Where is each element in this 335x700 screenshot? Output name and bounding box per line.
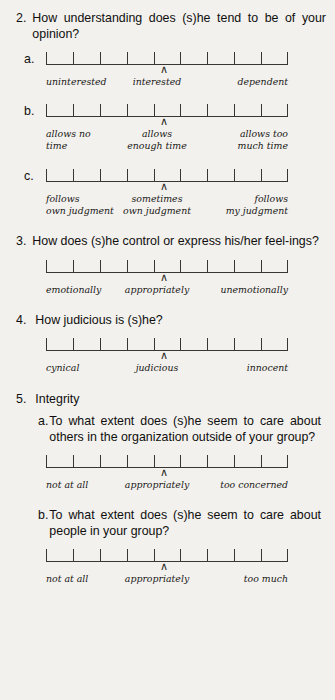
scale-tick[interactable] xyxy=(207,260,208,273)
rating-scale-2a[interactable]: ∧ xyxy=(46,51,288,66)
scale-tick[interactable] xyxy=(100,549,101,562)
scale-tick[interactable] xyxy=(127,260,128,273)
scale-5a[interactable]: ∧ not at all appropriately too concerned xyxy=(46,454,335,492)
rating-scale-5b[interactable]: ∧ xyxy=(46,548,288,563)
scale-tick[interactable] xyxy=(154,169,155,182)
scale-tick[interactable] xyxy=(127,52,128,65)
scale-tick[interactable] xyxy=(207,104,208,117)
scale-tick[interactable] xyxy=(154,549,155,562)
scale-2b[interactable]: b. ∧ allows no time allows enough time a… xyxy=(24,103,335,153)
scale-tick[interactable] xyxy=(180,338,181,351)
question-5b-text: To what extent does (s)he seem to care a… xyxy=(49,508,321,539)
scale-label-center: appropriately xyxy=(125,479,189,490)
question-3-number: 3. xyxy=(16,234,26,250)
scale-label-center: judicious xyxy=(136,362,179,373)
scale-tick[interactable] xyxy=(73,104,74,117)
scale-tick[interactable] xyxy=(261,260,262,273)
scale-tick[interactable] xyxy=(287,52,288,65)
scale-tick[interactable] xyxy=(73,338,74,351)
scale-tick[interactable] xyxy=(100,338,101,351)
scale-tick[interactable] xyxy=(73,260,74,273)
scale-tick[interactable] xyxy=(234,104,235,117)
scale-label-left: not at all xyxy=(46,573,88,584)
scale-tick[interactable] xyxy=(154,260,155,273)
scale-tick[interactable] xyxy=(127,455,128,468)
scale-tick[interactable] xyxy=(207,169,208,182)
scale-tick[interactable] xyxy=(154,338,155,351)
scale-tick[interactable] xyxy=(46,338,47,351)
scale-tick[interactable] xyxy=(261,338,262,351)
scale-tick[interactable] xyxy=(261,104,262,117)
scale-tick[interactable] xyxy=(180,260,181,273)
scale-tick[interactable] xyxy=(73,549,74,562)
scale-tick[interactable] xyxy=(180,549,181,562)
scale-tick[interactable] xyxy=(287,549,288,562)
scale-tick[interactable] xyxy=(100,104,101,117)
scale-marker-caret: ∧ xyxy=(160,182,168,192)
scale-tick[interactable] xyxy=(234,169,235,182)
scale-tick[interactable] xyxy=(261,52,262,65)
scale-tick[interactable] xyxy=(154,455,155,468)
scale-labels-5b: not at all appropriately too much xyxy=(46,573,288,586)
scale-5b[interactable]: ∧ not at all appropriately too much xyxy=(46,548,335,586)
scale-tick[interactable] xyxy=(180,455,181,468)
scale-tick[interactable] xyxy=(207,455,208,468)
scale-tick[interactable] xyxy=(234,260,235,273)
scale-tick[interactable] xyxy=(127,338,128,351)
scale-tick[interactable] xyxy=(46,455,47,468)
scale-tick[interactable] xyxy=(46,52,47,65)
scale-tick[interactable] xyxy=(287,455,288,468)
scale-tick[interactable] xyxy=(127,104,128,117)
scale-tick[interactable] xyxy=(287,338,288,351)
scale-tick[interactable] xyxy=(180,104,181,117)
scale-tick[interactable] xyxy=(207,52,208,65)
scale-label-left: allows no time xyxy=(46,128,91,151)
scale-2a[interactable]: a. ∧ uninterested interested dependent xyxy=(24,51,335,89)
scale-tick[interactable] xyxy=(127,169,128,182)
question-2: 2. How understanding does (s)he tend to … xyxy=(16,11,326,42)
scale-tick[interactable] xyxy=(261,169,262,182)
scale-marker-caret: ∧ xyxy=(160,562,168,572)
question-5b: b. To what extent does (s)he seem to car… xyxy=(38,508,321,539)
scale-tick[interactable] xyxy=(234,52,235,65)
scale-tick[interactable] xyxy=(73,169,74,182)
scale-labels-3: emotionally appropriately unemotionally xyxy=(46,284,288,297)
scale-tick[interactable] xyxy=(154,52,155,65)
scale-tick[interactable] xyxy=(287,260,288,273)
rating-scale-2c[interactable]: ∧ xyxy=(46,168,288,183)
scale-tick[interactable] xyxy=(287,169,288,182)
scale-tick[interactable] xyxy=(207,338,208,351)
scale-tick[interactable] xyxy=(100,455,101,468)
scale-tick[interactable] xyxy=(207,549,208,562)
scale-tick[interactable] xyxy=(73,52,74,65)
scale-tick[interactable] xyxy=(287,104,288,117)
scale-4[interactable]: ∧ cynical judicious innocent xyxy=(46,337,335,375)
scale-tick[interactable] xyxy=(261,455,262,468)
question-2-text: How understanding does (s)he tend to be … xyxy=(32,11,326,42)
scale-tick[interactable] xyxy=(234,338,235,351)
question-5-text: Integrity xyxy=(35,392,326,408)
rating-scale-2b[interactable]: ∧ xyxy=(46,103,288,118)
rating-scale-4[interactable]: ∧ xyxy=(46,337,288,352)
scale-tick[interactable] xyxy=(46,549,47,562)
scale-tick[interactable] xyxy=(73,455,74,468)
scale-tick[interactable] xyxy=(261,549,262,562)
scale-tick[interactable] xyxy=(100,52,101,65)
rating-scale-3[interactable]: ∧ xyxy=(46,259,288,274)
scale-tick[interactable] xyxy=(46,260,47,273)
scale-tick[interactable] xyxy=(234,549,235,562)
scale-tick[interactable] xyxy=(127,549,128,562)
scale-tick[interactable] xyxy=(234,455,235,468)
scale-tick[interactable] xyxy=(46,169,47,182)
scale-3[interactable]: ∧ emotionally appropriately unemotionall… xyxy=(46,259,335,297)
scale-tick[interactable] xyxy=(154,104,155,117)
scale-tick[interactable] xyxy=(100,169,101,182)
scale-marker-caret: ∧ xyxy=(160,117,168,127)
rating-scale-5a[interactable]: ∧ xyxy=(46,454,288,469)
scale-tick[interactable] xyxy=(46,104,47,117)
scale-tick[interactable] xyxy=(100,260,101,273)
scale-labels-4: cynical judicious innocent xyxy=(46,362,288,375)
scale-tick[interactable] xyxy=(180,52,181,65)
scale-tick[interactable] xyxy=(180,169,181,182)
scale-2c[interactable]: c. ∧ follows own judgment sometimes own … xyxy=(24,168,335,218)
